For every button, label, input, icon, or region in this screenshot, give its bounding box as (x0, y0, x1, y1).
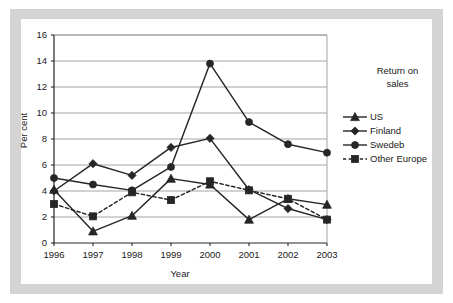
legend-marker-triangle-icon (342, 111, 368, 123)
data-point (129, 189, 136, 196)
x-tick-label: 1999 (154, 249, 188, 260)
data-point (51, 175, 58, 182)
data-point (167, 174, 176, 182)
x-tick-label: 2000 (193, 249, 227, 260)
x-tick-label: 2002 (271, 249, 305, 260)
data-point (207, 178, 214, 185)
y-tick-label: 4 (25, 185, 47, 196)
y-tick-label: 16 (25, 29, 47, 40)
data-point (324, 149, 331, 156)
chart-figure: 0246810121416 19961997199819992000200120… (0, 0, 453, 303)
x-tick-label: 2001 (232, 249, 266, 260)
x-tick-label: 1996 (37, 249, 71, 260)
data-point (324, 216, 331, 223)
legend-marker-diamond-icon (342, 125, 368, 137)
y-tick-label: 2 (25, 211, 47, 222)
x-tick-label: 2003 (310, 249, 344, 260)
legend-title-line2: sales (350, 77, 445, 90)
legend-item-us[interactable]: US (342, 110, 447, 124)
y-tick-label: 12 (25, 81, 47, 92)
legend-item-finland[interactable]: Finland (342, 124, 447, 138)
data-point (284, 204, 292, 212)
x-axis-title: Year (120, 268, 240, 279)
legend-item-other-europe[interactable]: Other Europe (342, 152, 447, 166)
legend-label: Swedeb (370, 139, 404, 151)
legend-label: US (370, 111, 383, 123)
y-axis-title: Per cent (18, 96, 29, 166)
legend-marker-circle-icon (342, 139, 368, 151)
data-point (207, 60, 214, 67)
data-point (246, 119, 253, 126)
data-point (90, 213, 97, 220)
legend-title-line1: Return on (350, 64, 445, 77)
data-point (168, 163, 175, 170)
y-tick-label: 0 (25, 237, 47, 248)
data-point (90, 181, 97, 188)
gridlines (54, 35, 327, 217)
legend-marker-square-icon (342, 153, 368, 165)
legend-title: Return on sales (350, 64, 445, 90)
data-point (51, 201, 58, 208)
data-point (246, 187, 253, 194)
y-tick-label: 14 (25, 55, 47, 66)
legend-label: Other Europe (370, 153, 427, 165)
x-tick-label: 1997 (76, 249, 110, 260)
x-tick-label: 1998 (115, 249, 149, 260)
data-point (168, 197, 175, 204)
data-series-layer (50, 60, 332, 235)
data-point (285, 141, 292, 148)
legend: USFinlandSwedebOther Europe (342, 110, 447, 166)
legend-label: Finland (370, 125, 401, 137)
series-swedeb (51, 60, 331, 194)
data-point (285, 195, 292, 202)
legend-item-swedeb[interactable]: Swedeb (342, 138, 447, 152)
